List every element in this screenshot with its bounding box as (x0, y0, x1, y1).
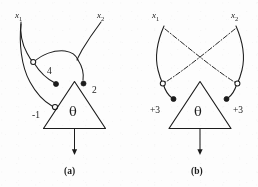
panel-b-caption: (b) (191, 167, 203, 177)
panel-a-weight-label-4: 4 (47, 67, 52, 77)
figure-canvas (0, 0, 258, 187)
panel-a-loop-right-descent (78, 60, 83, 80)
panel-a-weight-label-2: 2 (92, 86, 97, 96)
panel-b-x1-solid-curve (157, 26, 164, 83)
figure-root: x1 x2 4 2 -1 θ (a) x1 x2 +3 +3 θ (b) (0, 0, 258, 187)
panel-a-loop-upper-arc (34, 51, 78, 62)
panel-a-weight4-filled-terminal (54, 82, 59, 87)
panel-b-weight-label-left: +3 (150, 106, 160, 116)
panel-b-left-filled-terminal (171, 97, 176, 102)
panel-b-x2-solid-curve (236, 26, 243, 83)
panel-a-caption: (a) (64, 167, 75, 177)
panel-a-input-label-x2: x2 (97, 11, 104, 22)
panel-a-x1-branch-to-minus-one (20, 24, 52, 106)
panel-b-right-open-junction-node (235, 81, 240, 86)
panel-b-left-open-junction-node (160, 81, 165, 86)
panel-b-right-node-to-dot (228, 84, 237, 98)
panel-a-threshold-symbol: θ (69, 105, 77, 118)
panel-b-input-label-x1: x1 (152, 11, 159, 22)
panel-b-left-node-to-dot (163, 84, 172, 98)
panel-b-right-filled-terminal (224, 97, 229, 102)
panel-a-x2-trunk (77, 22, 101, 60)
panel-b-threshold-symbol: θ (194, 105, 202, 118)
panel-a-input-label-x1: x1 (15, 11, 22, 22)
panel-b-graphics (157, 26, 244, 152)
panel-b-input-label-x2: x2 (231, 11, 238, 22)
panel-b-weight-label-right: +3 (233, 106, 243, 116)
panel-a-x1-branch-to-open-node (21, 22, 33, 62)
panel-a-weight-label-minus-one: -1 (32, 111, 40, 121)
panel-a-open-junction-node (31, 60, 36, 65)
panel-a-weight2-filled-terminal (81, 81, 86, 86)
